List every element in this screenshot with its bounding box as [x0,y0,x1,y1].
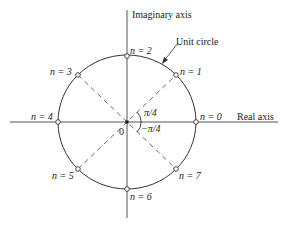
root-marker-n7 [174,167,179,172]
label-n6: n = 6 [130,191,152,202]
label-n0: n = 0 [200,111,222,122]
angle-pos-label: π/4 [144,107,157,118]
root-marker-n1 [174,73,179,78]
root-marker-n3 [76,73,81,78]
unit-circle-label: Unit circle [176,36,219,47]
imaginary-axis-label: Imaginary axis [132,9,192,20]
label-n3: n = 3 [50,66,72,77]
unit-circle-diagram: Imaginary axis Real axis Unit circle 0 π… [0,0,288,226]
real-axis-label: Real axis [237,111,274,122]
label-n5: n = 5 [52,170,74,181]
root-marker-n0 [194,120,199,125]
angle-neg-label: −π/4 [141,123,161,134]
label-n2: n = 2 [130,45,152,56]
root-marker-n5 [76,167,81,172]
origin-marker [126,121,129,124]
arrowhead-icon [162,57,168,64]
label-n1: n = 1 [180,66,202,77]
origin-label: 0 [119,126,124,137]
label-n7: n = 7 [179,170,202,181]
root-marker-n4 [56,120,61,125]
root-marker-n2 [125,54,130,59]
label-n4: n = 4 [31,111,53,122]
root-marker-n6 [125,187,130,192]
